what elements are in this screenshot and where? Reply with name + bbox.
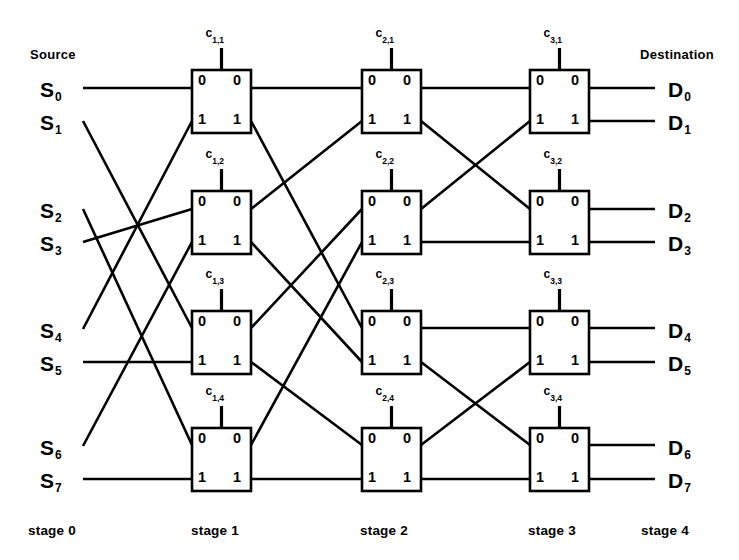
port-in-1-c3_4: 1 <box>536 469 544 485</box>
destination-header: Destination <box>640 47 714 62</box>
port-in-1-c3_1: 1 <box>536 111 544 127</box>
stage-label-2: stage 2 <box>360 523 408 538</box>
port-out-1-c3_4: 1 <box>571 469 579 485</box>
destination-letter: D <box>668 78 683 101</box>
destination-label-3: D3 <box>668 232 690 256</box>
control-subscript: 1,1 <box>212 35 224 45</box>
destination-index: 5 <box>684 364 691 378</box>
port-in-0-c3_2: 0 <box>536 193 544 209</box>
port-in-0-c2_1: 0 <box>368 72 376 88</box>
control-label-c1_2: c1,2 <box>206 147 225 163</box>
port-in-0-c2_3: 0 <box>368 313 376 329</box>
control-subscript: 1,4 <box>212 393 224 403</box>
port-in-0-c2_2: 0 <box>368 193 376 209</box>
control-label-c3_4: c3,4 <box>544 384 563 400</box>
link-S2-to-c1_4-0 <box>83 209 192 445</box>
destination-index: 0 <box>684 90 691 104</box>
port-in-1-c1_1: 1 <box>198 111 206 127</box>
destination-letter: D <box>668 352 683 375</box>
control-subscript: 3,4 <box>550 393 562 403</box>
source-index: 4 <box>55 331 62 345</box>
port-in-0-c2_4: 0 <box>368 430 376 446</box>
links-layer <box>83 88 655 479</box>
control-subscript: 2,3 <box>382 276 394 286</box>
network-diagram-canvas: Source Destination c1,10011c1,20011c1,30… <box>0 0 739 560</box>
port-in-1-c3_2: 1 <box>536 232 544 248</box>
control-label-c3_1: c3,1 <box>544 26 563 42</box>
source-label-2: S2 <box>40 199 61 223</box>
control-label-c2_4: c2,4 <box>376 384 395 400</box>
control-label-c1_4: c1,4 <box>206 384 225 400</box>
source-letter: S <box>40 199 54 222</box>
control-label-c1_1: c1,1 <box>206 26 225 42</box>
control-subscript: 3,3 <box>550 276 562 286</box>
destination-letter: D <box>668 111 683 134</box>
port-in-0-c1_4: 0 <box>198 430 206 446</box>
port-out-0-c3_3: 0 <box>571 313 579 329</box>
source-letter: S <box>40 352 54 375</box>
source-label-1: S1 <box>40 111 61 135</box>
port-out-0-c2_4: 0 <box>403 430 411 446</box>
control-subscript: 2,1 <box>382 35 394 45</box>
port-in-1-c1_2: 1 <box>198 232 206 248</box>
port-out-1-c2_2: 1 <box>403 232 411 248</box>
source-label-5: S5 <box>40 352 61 376</box>
control-label-c1_3: c1,3 <box>206 267 225 283</box>
port-out-0-c1_2: 0 <box>233 193 241 209</box>
control-label-c2_3: c2,3 <box>376 267 395 283</box>
port-in-1-c1_3: 1 <box>198 352 206 368</box>
source-label-7: S7 <box>40 469 61 493</box>
destination-label-1: D1 <box>668 111 690 135</box>
port-out-0-c1_1: 0 <box>233 72 241 88</box>
source-label-0: S0 <box>40 78 61 102</box>
port-in-0-c1_2: 0 <box>198 193 206 209</box>
control-label-c3_3: c3,3 <box>544 267 563 283</box>
destination-label-2: D2 <box>668 199 690 223</box>
port-out-1-c3_3: 1 <box>571 352 579 368</box>
source-letter: S <box>40 436 54 459</box>
source-index: 6 <box>55 448 62 462</box>
stage-label-1: stage 1 <box>191 523 239 538</box>
port-out-1-c2_1: 1 <box>403 111 411 127</box>
destination-label-6: D6 <box>668 436 690 460</box>
source-letter: S <box>40 319 54 342</box>
destination-letter: D <box>668 319 683 342</box>
port-out-1-c3_1: 1 <box>571 111 579 127</box>
control-subscript: 2,2 <box>382 156 394 166</box>
destination-index: 1 <box>684 123 691 137</box>
destination-index: 6 <box>684 448 691 462</box>
port-in-0-c1_1: 0 <box>198 72 206 88</box>
destination-index: 2 <box>684 211 691 225</box>
control-subscript: 3,2 <box>550 156 562 166</box>
port-in-1-c2_3: 1 <box>368 352 376 368</box>
destination-index: 4 <box>684 331 691 345</box>
control-subscript: 1,2 <box>212 156 224 166</box>
port-in-1-c2_4: 1 <box>368 469 376 485</box>
destination-label-7: D7 <box>668 469 690 493</box>
control-subscript: 2,4 <box>382 393 394 403</box>
port-out-0-c3_2: 0 <box>571 193 579 209</box>
port-out-1-c3_2: 1 <box>571 232 579 248</box>
port-out-1-c1_2: 1 <box>233 232 241 248</box>
source-letter: S <box>40 232 54 255</box>
port-in-1-c3_3: 1 <box>536 352 544 368</box>
port-out-0-c1_4: 0 <box>233 430 241 446</box>
source-index: 1 <box>55 123 62 137</box>
link-S6-to-c1_2-1 <box>83 242 192 446</box>
source-index: 5 <box>55 364 62 378</box>
link-c1_1-1-to-c2_3-0 <box>251 121 362 328</box>
port-out-0-c3_1: 0 <box>571 72 579 88</box>
control-label-c3_2: c3,2 <box>544 147 563 163</box>
port-out-0-c2_1: 0 <box>403 72 411 88</box>
port-in-1-c2_1: 1 <box>368 111 376 127</box>
source-index: 3 <box>55 244 62 258</box>
destination-label-5: D5 <box>668 352 690 376</box>
source-index: 7 <box>55 481 62 495</box>
port-in-0-c3_3: 0 <box>536 313 544 329</box>
port-in-1-c1_4: 1 <box>198 469 206 485</box>
control-label-c2_2: c2,2 <box>376 147 395 163</box>
destination-letter: D <box>668 469 683 492</box>
source-label-4: S4 <box>40 319 61 343</box>
stage-label-0: stage 0 <box>28 523 76 538</box>
destination-index: 3 <box>684 244 691 258</box>
